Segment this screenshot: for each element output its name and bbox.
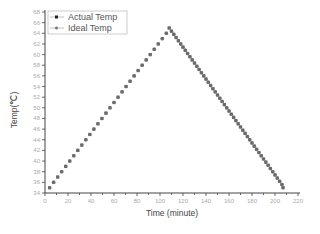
actual-temp-point [230, 113, 233, 116]
actual-temp-point [269, 167, 272, 170]
y-axis-title: Temp(℃) [9, 92, 19, 129]
actual-temp-point [257, 151, 260, 154]
actual-temp-point [104, 112, 107, 115]
x-tick-label: 100 [155, 198, 166, 204]
actual-temp-point [239, 125, 242, 128]
actual-temp-point [211, 87, 214, 90]
actual-temp-point [227, 109, 230, 112]
actual-temp-point [175, 36, 178, 39]
actual-temp-point [264, 161, 267, 164]
actual-temp-point [232, 116, 235, 119]
y-tick-label: 62 [33, 41, 40, 47]
actual-temp-point [168, 26, 171, 29]
actual-temp-point [246, 135, 249, 138]
actual-temp-point [273, 173, 276, 176]
actual-temp-point [250, 141, 253, 144]
actual-temp-point [209, 84, 212, 87]
x-tick-label: 180 [247, 198, 258, 204]
actual-temp-point [221, 100, 224, 103]
y-tick-label: 38 [33, 169, 40, 175]
actual-temp-point [137, 69, 140, 72]
actual-temp-point [218, 97, 221, 100]
actual-temp-point [170, 30, 173, 33]
actual-temp-point [278, 180, 281, 183]
actual-temp-point [100, 117, 103, 120]
legend: Actual Temp Ideal Temp [48, 11, 127, 34]
actual-temp-point [255, 148, 258, 151]
actual-temp-point [88, 133, 91, 136]
x-tick-label: 140 [201, 198, 212, 204]
actual-temp-point [161, 37, 164, 40]
axes: 343638404244464850525456586062646668 020… [33, 9, 303, 204]
actual-temp-point [177, 39, 180, 42]
actual-temp-point [179, 42, 182, 45]
y-tick-label: 66 [33, 20, 40, 26]
actual-temp-point [149, 53, 152, 56]
actual-temp-point [214, 90, 217, 93]
actual-temp-point [108, 106, 111, 109]
x-tick-label: 60 [111, 198, 118, 204]
legend-actual-temp: Actual Temp [68, 12, 117, 22]
actual-temp-point [141, 64, 144, 67]
x-tick-label: 200 [270, 198, 281, 204]
actual-temp-point [112, 101, 115, 104]
actual-temp-point [223, 103, 226, 106]
actual-temp-point [80, 143, 83, 146]
actual-temp-point [207, 81, 210, 84]
data-points [48, 26, 285, 189]
actual-temp-point [92, 128, 95, 131]
actual-temp-point [96, 122, 99, 125]
x-ticks: 020406080100120140160180200220 [43, 193, 303, 204]
actual-temp-point [76, 149, 79, 152]
x-tick-label: 160 [224, 198, 235, 204]
y-tick-label: 68 [33, 9, 40, 15]
legend-ideal-temp: Ideal Temp [68, 23, 112, 33]
legend-square-icon [55, 16, 58, 19]
y-tick-label: 54 [33, 84, 40, 90]
actual-temp-point [133, 74, 136, 77]
actual-temp-point [84, 138, 87, 141]
x-tick-label: 120 [178, 198, 189, 204]
actual-temp-point [260, 154, 263, 157]
y-tick-label: 36 [33, 179, 40, 185]
actual-temp-point [120, 90, 123, 93]
x-tick-label: 220 [293, 198, 304, 204]
y-tick-label: 40 [33, 158, 40, 164]
actual-temp-point [281, 186, 284, 189]
legend-circle-icon [55, 27, 58, 30]
actual-temp-point [280, 183, 283, 186]
actual-temp-point [191, 58, 194, 61]
actual-temp-point [129, 80, 132, 83]
x-tick-label: 40 [88, 198, 95, 204]
actual-temp-point [60, 170, 63, 173]
actual-temp-point [244, 132, 247, 135]
actual-temp-point [145, 58, 148, 61]
y-ticks: 343638404244464850525456586062646668 [33, 9, 45, 196]
y-tick-label: 42 [33, 147, 40, 153]
actual-temp-point [262, 157, 265, 160]
actual-temp-point [184, 49, 187, 52]
temperature-chart: 343638404244464850525456586062646668 020… [0, 0, 320, 234]
actual-temp-point [225, 106, 228, 109]
actual-temp-point [198, 68, 201, 71]
x-tick-label: 80 [134, 198, 141, 204]
actual-temp-point [195, 65, 198, 68]
actual-temp-point [56, 175, 59, 178]
x-tick-label: 20 [65, 198, 72, 204]
actual-temp-point [165, 32, 168, 35]
x-axis-title: Time (minute) [146, 208, 198, 218]
actual-temp-point [64, 165, 67, 168]
actual-temp-point [241, 129, 244, 132]
actual-temp-point [124, 85, 127, 88]
actual-temp-point [253, 145, 256, 148]
actual-temp-point [188, 55, 191, 58]
actual-temp-point [48, 186, 51, 189]
y-tick-label: 58 [33, 62, 40, 68]
y-tick-label: 46 [33, 126, 40, 132]
actual-temp-point [271, 170, 274, 173]
actual-temp-point [68, 159, 71, 162]
y-tick-label: 60 [33, 52, 40, 58]
actual-temp-point [116, 96, 119, 99]
actual-temp-point [153, 48, 156, 51]
actual-temp-point [216, 93, 219, 96]
